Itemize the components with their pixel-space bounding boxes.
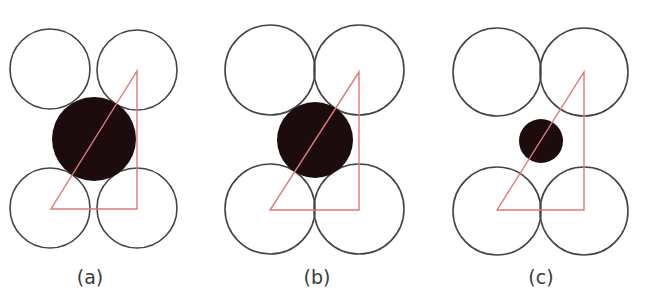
panel-a: (a) [10,29,177,288]
interstitial-diagram: (a) (b) (c) [0,0,649,297]
host-sphere-outline [453,28,541,116]
host-sphere-outline [10,168,90,248]
panel-label: (a) [77,266,103,288]
panel-b: (b) [225,25,404,288]
panel-label: (c) [528,266,553,288]
panel-c: (c) [453,28,628,288]
geometry-triangle [497,72,584,210]
panel-label: (b) [304,266,331,288]
host-sphere-outline [10,29,90,109]
host-sphere-outline [225,25,315,115]
host-sphere-outline [453,167,541,255]
